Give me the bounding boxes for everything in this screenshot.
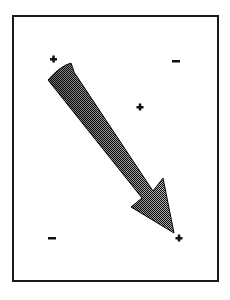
arrow xyxy=(48,63,174,233)
plus-marker-center xyxy=(137,104,144,111)
minus-marker-bottom-left xyxy=(48,237,56,240)
plus-marker-top-left xyxy=(50,56,57,63)
minus-marker-top-right xyxy=(172,60,180,63)
plus-marker-bottom-right xyxy=(176,235,183,242)
field-diagram xyxy=(0,0,230,300)
